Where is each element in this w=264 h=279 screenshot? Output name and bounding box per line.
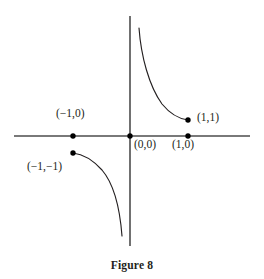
label-point-neg1-neg1: (−1,−1) — [27, 161, 62, 173]
figure-container: (−1,0) (1,1) (0,0) (1,0) (−1,−1) Figure … — [0, 0, 264, 279]
point-neg1-0 — [70, 133, 75, 138]
point-neg1-neg1 — [70, 150, 75, 155]
curve-branch-quadrant-one — [139, 28, 188, 120]
figure-caption: Figure 8 — [0, 259, 264, 271]
label-point-1-1: (1,1) — [197, 112, 219, 124]
label-point-neg1-0: (−1,0) — [56, 108, 85, 120]
point-1-1 — [185, 117, 190, 122]
label-point-origin: (0,0) — [134, 139, 156, 151]
coordinate-plot — [0, 0, 264, 279]
point-origin — [127, 133, 132, 138]
label-point-1-0: (1,0) — [172, 139, 194, 151]
curve-branch-quadrant-three — [73, 153, 122, 236]
